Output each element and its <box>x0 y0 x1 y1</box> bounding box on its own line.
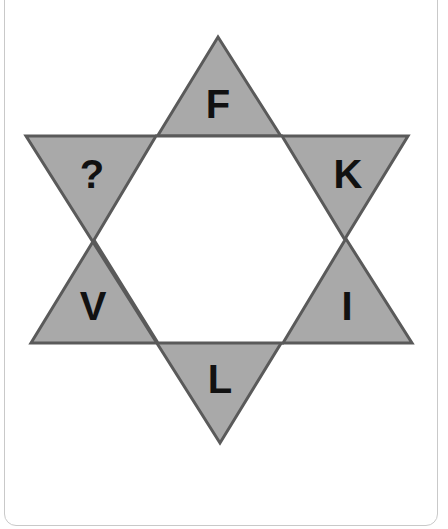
point-upper-left-label: ? <box>80 152 104 196</box>
point-upper-right-label: K <box>334 152 363 196</box>
star-diagram: F K I L V ? <box>0 0 448 529</box>
point-top-label: F <box>206 82 230 126</box>
point-lower-left-label: V <box>80 284 107 328</box>
point-bottom-label: L <box>208 357 232 401</box>
point-lower-right-label: I <box>341 284 352 328</box>
